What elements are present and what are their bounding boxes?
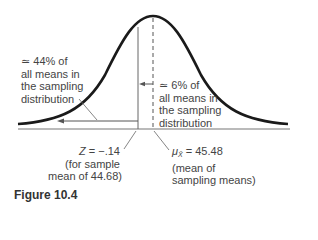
middle-region-line4: distribution bbox=[159, 117, 221, 130]
left-region-line4: distribution bbox=[21, 93, 83, 106]
middle-region-line1: ≃ 6% of bbox=[159, 79, 221, 92]
z-note-line2: (for sample bbox=[48, 158, 120, 171]
middle-region-line3: the sampling bbox=[159, 104, 221, 117]
z-score-label: Z = −.14 (for sample mean of 44.68) bbox=[48, 145, 120, 183]
z-note-line3: mean of 44.68) bbox=[48, 170, 120, 183]
mean-label: μX̄ = 45.48 (mean of sampling means) bbox=[172, 145, 256, 187]
left-region-line1: ≃ 44% of bbox=[21, 55, 83, 68]
mean-note-line3: sampling means) bbox=[172, 174, 256, 187]
middle-region-line2: all means in bbox=[159, 92, 221, 105]
mean-note-line2: (mean of bbox=[172, 162, 256, 175]
mean-leader-line bbox=[154, 131, 169, 150]
left-region-label: ≃ 44% of all means in the sampling distr… bbox=[21, 55, 83, 105]
z-score-value: Z = −.14 bbox=[48, 145, 120, 158]
z-symbol: Z bbox=[79, 145, 86, 157]
arrowhead-small-icon bbox=[139, 82, 145, 86]
z-leader-line bbox=[124, 131, 136, 149]
z-value: = −.14 bbox=[86, 145, 120, 157]
middle-region-label: ≃ 6% of all means in the sampling distri… bbox=[159, 79, 221, 129]
arrowhead-left-icon bbox=[57, 119, 64, 124]
mean-number: = 45.48 bbox=[183, 145, 223, 157]
left-region-line3: the sampling bbox=[21, 80, 83, 93]
figure-caption: Figure 10.4 bbox=[14, 188, 77, 202]
left-region-line2: all means in bbox=[21, 68, 83, 81]
mean-value: μX̄ = 45.48 bbox=[172, 145, 256, 162]
